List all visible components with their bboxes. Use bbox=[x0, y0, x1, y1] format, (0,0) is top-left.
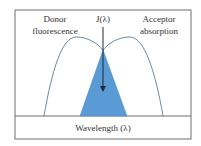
donor-label-line1: Donor bbox=[44, 14, 67, 24]
donor-label-line2: fluorescence bbox=[32, 26, 77, 36]
x-axis-label: Wavelength (λ) bbox=[75, 123, 130, 133]
acceptor-label-line1: Acceptor bbox=[143, 14, 176, 24]
spectral-overlap-diagram: Donor fluorescence J(λ) Acceptor absorpt… bbox=[0, 0, 201, 146]
acceptor-label-line2: absorption bbox=[140, 26, 178, 36]
overlap-label: J(λ) bbox=[96, 14, 110, 24]
